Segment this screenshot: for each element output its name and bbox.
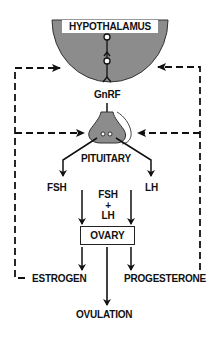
pituitary-shape [89,112,126,143]
estrogen-label: ESTROGEN [32,273,87,284]
hypothalamus-label: HYPOTHALAMUS [62,20,158,33]
gnrf-label: GnRF [94,89,120,100]
ovary-box: OVARY [80,226,135,245]
fsh-label: FSH [47,182,66,193]
progesterone-feedback-line [158,67,200,270]
progesterone-label: PROGESTERONE [124,273,206,284]
ovulation-label: OVULATION [76,309,132,320]
fsh-lh-bottom-label: LH [97,210,119,221]
pituitary-label: PITUITARY [81,153,131,164]
estrogen-feedback-line [15,68,60,278]
diagram-canvas [0,0,222,337]
feedback-arrowhead-right-top [157,63,166,71]
fsh-lh-top-label: FSH [97,189,119,200]
feedback-arrowhead-left-mid [76,129,85,137]
lh-label: LH [145,182,158,193]
